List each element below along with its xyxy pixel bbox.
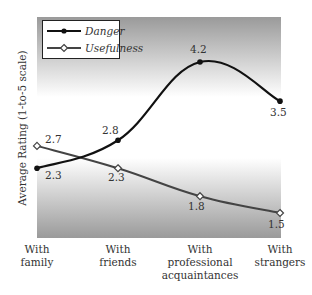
usefulness-data-label: 1.8 (188, 200, 205, 212)
danger-legend-icon (47, 26, 81, 36)
danger-point-marker (197, 59, 203, 65)
legend-item-danger: Danger (47, 23, 124, 39)
danger-point-marker (115, 137, 121, 143)
y-axis-label: Average Rating (1-to-5 scale) (16, 50, 28, 205)
legend-label-danger: Danger (85, 25, 124, 37)
legend-item-usefulness: Usefulness (47, 40, 143, 56)
danger-point-marker (277, 98, 283, 104)
usefulness-legend-icon (47, 43, 81, 53)
usefulness-data-label: 1.5 (268, 218, 285, 230)
danger-data-label: 2.3 (45, 169, 62, 181)
danger-point-marker (34, 165, 40, 171)
usefulness-data-label: 2.7 (45, 133, 62, 145)
usefulness-data-label: 2.3 (108, 171, 125, 183)
danger-data-label: 4.2 (190, 43, 207, 55)
legend: Danger Usefulness (42, 20, 120, 59)
x-tick-label: Withstrangers (225, 243, 312, 269)
danger-data-label: 3.5 (270, 106, 287, 118)
usefulness-point-marker (34, 142, 41, 149)
danger-data-label: 2.8 (102, 124, 119, 136)
legend-label-usefulness: Usefulness (85, 42, 143, 54)
